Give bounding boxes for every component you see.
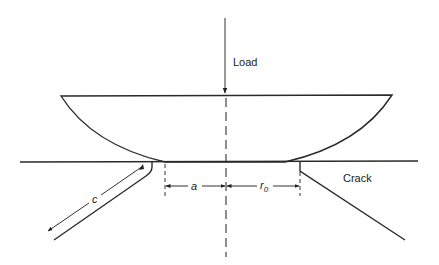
specimen-surface (20, 161, 418, 162)
crack-label: Crack (343, 172, 372, 184)
extension-lines (165, 164, 300, 196)
load-label: Load (233, 56, 257, 68)
indentation-diagram: Load a r0 c Crack (0, 0, 439, 265)
dimension-c-label: c (92, 193, 98, 205)
cone-crack-left (54, 162, 152, 240)
dimension-a-label: a (191, 180, 197, 192)
dimension-r0-label: r0 (260, 179, 269, 194)
